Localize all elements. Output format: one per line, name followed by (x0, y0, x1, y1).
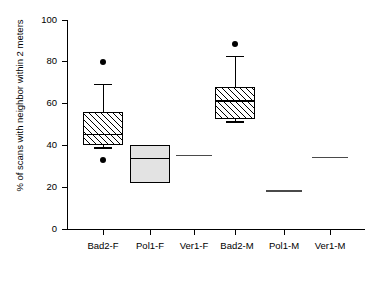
median-line-bad2-m (215, 100, 255, 101)
x-tick-ver1-m (330, 230, 331, 235)
box-bad2-m (215, 87, 255, 119)
y-tick-label-40: 40 (27, 140, 57, 150)
x-tick-label-ver1-m: Ver1-M (315, 240, 346, 251)
outlier-point-bad2-f-1 (100, 157, 106, 163)
x-tick-label-pol1-m: Pol1-M (269, 240, 299, 251)
x-tick-pol1-m (284, 230, 285, 235)
box-series-layer (67, 20, 365, 229)
median-line-bad2-f (83, 134, 123, 135)
whisker-cap-lower-bad2-f (94, 147, 112, 148)
y-axis-title: % of scans with neighbor within 2 meters (14, 0, 25, 216)
whisker-cap-upper-bad2-f (94, 84, 112, 85)
y-tick-label-20: 20 (27, 182, 57, 192)
x-tick-bad2-f (103, 230, 104, 235)
x-tick-pol1-f (150, 230, 151, 235)
single-value-line-pol1-m (266, 190, 302, 192)
whisker-cap-lower-bad2-m (226, 121, 244, 122)
x-tick-label-pol1-f: Pol1-F (136, 240, 164, 251)
y-tick-label-0: 0 (27, 224, 57, 234)
x-tick-bad2-m (235, 230, 236, 235)
x-axis-line (67, 229, 365, 230)
box-pol1-f (130, 145, 170, 183)
whisker-upper-bad2-m (235, 56, 236, 87)
whisker-cap-upper-bad2-m (226, 56, 244, 57)
outlier-point-bad2-m-0 (232, 41, 238, 47)
single-value-line-ver1-m (312, 157, 348, 159)
box-bad2-f (83, 112, 123, 145)
median-line-pol1-f (130, 158, 170, 159)
x-tick-label-bad2-f: Bad2-F (87, 240, 118, 251)
y-tick-label-60: 60 (27, 98, 57, 108)
outlier-point-bad2-f-0 (100, 59, 106, 65)
y-tick-label-100: 100 (27, 15, 57, 25)
y-tick-label-80: 80 (27, 56, 57, 66)
x-tick-ver1-f (194, 230, 195, 235)
x-tick-label-bad2-m: Bad2-M (220, 240, 253, 251)
box-plot-chart: 0 20 40 60 80 100 % of scans with neighb… (0, 0, 380, 283)
whisker-upper-bad2-f (103, 84, 104, 112)
x-tick-label-ver1-f: Ver1-F (180, 240, 209, 251)
single-value-line-ver1-f (176, 155, 212, 157)
